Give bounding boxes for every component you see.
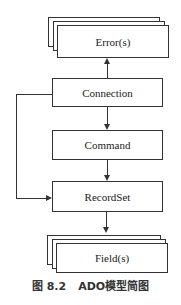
figure-number: 图 8.2 xyxy=(32,280,66,293)
figure-caption: 图 8.2ADO模型简图 xyxy=(0,277,181,293)
command-label: Command xyxy=(85,139,131,151)
fields-node: Field(s) xyxy=(56,243,168,273)
edge-connection-errors xyxy=(107,64,108,78)
edge-recordset-fields xyxy=(106,212,107,228)
edge-connection-recordset-h1 xyxy=(16,94,52,95)
edge-connection-recordset-h2 xyxy=(16,198,46,199)
arrow-down-icon xyxy=(103,227,109,233)
ado-model-diagram: Error(s) Connection Command RecordSet Fi… xyxy=(0,0,181,305)
arrow-up-icon xyxy=(104,58,110,64)
errors-node: Error(s) xyxy=(57,25,169,58)
recordset-label: RecordSet xyxy=(85,191,131,203)
errors-label: Error(s) xyxy=(96,36,131,48)
edge-command-recordset xyxy=(107,160,108,176)
recordset-node: RecordSet xyxy=(52,181,163,212)
connection-node: Connection xyxy=(52,78,163,107)
connection-label: Connection xyxy=(82,87,133,99)
command-node: Command xyxy=(52,130,163,160)
figure-title: ADO模型简图 xyxy=(78,280,149,293)
fields-label: Field(s) xyxy=(95,252,129,264)
edge-connection-command xyxy=(107,107,108,125)
edge-connection-recordset-v xyxy=(16,94,17,199)
